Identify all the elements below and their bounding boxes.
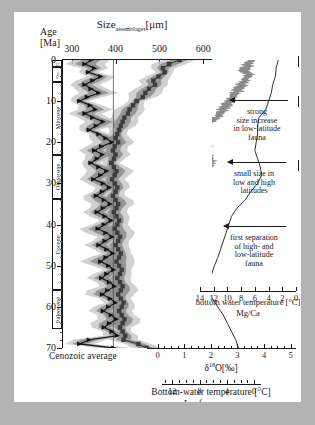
d18o-axis-tick-major	[158, 344, 159, 348]
data-point-marker	[112, 165, 116, 169]
size-plot-area	[63, 60, 212, 348]
data-point-marker	[113, 190, 117, 194]
age-axis-tick-minor	[60, 290, 62, 291]
d18o-axis-tick-major	[237, 344, 238, 348]
data-point-marker	[118, 280, 122, 284]
data-point-marker	[177, 60, 181, 62]
data-point-marker	[119, 288, 123, 292]
age-axis-tick-minor	[60, 299, 62, 300]
data-point-marker	[110, 177, 114, 181]
figure-panel: Sizeassemblages[μm] Age [Ma] 30040050060…	[14, 12, 301, 402]
data-point-marker	[120, 305, 124, 309]
temperature-axis-label: Bottom-water temperature [°C]	[151, 387, 270, 397]
data-point-marker	[122, 317, 126, 321]
d18o-axis-tick-major	[264, 344, 265, 348]
data-point-marker	[113, 152, 117, 156]
data-point-marker	[113, 227, 117, 231]
data-point-marker	[151, 78, 155, 82]
size-axis-tick-label: 300	[64, 43, 79, 54]
mgca-axis-tick	[282, 287, 283, 291]
data-point-marker	[141, 95, 145, 99]
d18o-axis-tick-label: 5	[289, 350, 293, 360]
age-axis-tick-major	[57, 60, 62, 61]
d18o-axis-tick-minor	[284, 346, 285, 349]
mgca-axis-sublabel: Mg/Ca	[236, 308, 260, 318]
d18o-axis-tick-minor	[204, 346, 205, 349]
temperature-axis-tick-minor	[247, 380, 248, 383]
age-axis-tick-label: 40	[30, 219, 56, 230]
data-point-marker	[163, 70, 167, 74]
data-point-marker	[114, 259, 118, 263]
age-axis-tick-minor	[60, 85, 62, 86]
data-point-marker	[114, 206, 118, 210]
age-axis-tick-minor	[60, 332, 62, 333]
data-point-marker	[119, 124, 123, 128]
d18o-axis-label: δ18O[‰]	[204, 362, 237, 373]
temperature-axis-tick-minor	[234, 380, 235, 383]
mgca-axis-tick	[227, 287, 228, 291]
data-point-marker	[118, 272, 122, 276]
data-point-marker	[117, 218, 121, 222]
data-point-marker	[131, 103, 135, 107]
age-axis-tick-major	[57, 142, 62, 143]
mgca-axis: 14121086420	[200, 291, 296, 292]
data-point-marker	[114, 169, 118, 173]
data-point-marker	[167, 62, 171, 66]
epoch-plio: Plio.	[52, 67, 62, 81]
data-point-marker	[112, 210, 116, 214]
annotation-first-separation: first separationof high- andlow-latitude…	[210, 234, 298, 269]
data-point-marker	[120, 329, 124, 333]
age-axis-tick-minor	[60, 323, 62, 324]
age-axis-tick-minor	[60, 192, 62, 193]
cenozoic-average-label: Cenozoic average	[49, 351, 117, 361]
age-axis-tick-label: 30	[30, 177, 56, 188]
d18o-axis-tick-minor	[251, 346, 252, 349]
data-point-marker	[123, 334, 127, 338]
age-axis-tick-major	[57, 348, 62, 349]
mgca-axis-tick	[269, 287, 270, 291]
data-point-marker	[120, 321, 124, 325]
epoch-eocene: Eocene	[52, 199, 62, 289]
age-axis-tick-major	[57, 307, 62, 308]
annotation-small-size: small size inlow and highlatitudes	[212, 170, 296, 196]
age-axis-tick-minor	[60, 175, 62, 176]
age-axis-tick-major	[57, 266, 62, 267]
data-point-marker	[117, 309, 121, 313]
data-point-marker	[127, 107, 131, 111]
annotation-arrow-1	[230, 100, 288, 101]
data-point-marker	[115, 222, 119, 226]
data-point-marker	[122, 115, 126, 119]
temperature-axis-tick-minor	[241, 380, 242, 383]
edge-tick-1	[298, 56, 299, 67]
age-axis-tick-label: 20	[30, 136, 56, 147]
data-point-marker	[117, 255, 121, 259]
age-axis-tick-minor	[60, 200, 62, 201]
age-axis-tick-label: 0	[30, 54, 56, 65]
data-point-marker	[115, 185, 119, 189]
age-axis-tick-minor	[60, 151, 62, 152]
mgca-axis-tick	[214, 287, 215, 291]
size-axis-tick-label: 500	[152, 43, 167, 54]
data-point-marker	[120, 120, 124, 124]
data-point-marker	[113, 243, 117, 247]
age-axis-tick-minor	[60, 315, 62, 316]
age-axis-tick-minor	[60, 257, 62, 258]
data-point-marker	[117, 128, 121, 132]
d18o-rest: O[‰]	[215, 363, 238, 373]
mgca-axis-tick	[296, 287, 297, 291]
annotation-arrow-3	[224, 226, 286, 227]
annotation-line: fauna	[216, 134, 298, 143]
data-point-marker	[121, 301, 125, 305]
d18o-axis-tick-minor	[178, 346, 179, 349]
data-point-marker	[111, 194, 115, 198]
mgca-axis-label: bottom water temperature [°C]	[196, 297, 301, 307]
age-axis-tick-label: 70	[30, 342, 56, 353]
age-axis-label: Age	[40, 26, 57, 37]
temperature-axis-tick-major	[254, 380, 255, 384]
age-axis-tick-label: 60	[30, 301, 56, 312]
data-point-marker	[120, 313, 124, 317]
data-point-marker	[109, 161, 113, 165]
annotation-line: fauna	[210, 260, 298, 269]
age-axis-tick-label: 10	[30, 95, 56, 106]
d18o-axis-tick-minor	[218, 346, 219, 349]
